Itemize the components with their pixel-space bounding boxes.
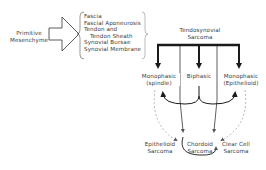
dashed-arcs [154,90,246,140]
root-line1: Tendosynovial [178,27,222,34]
tissue-item: Tendon Sheath [84,33,141,40]
tissue-list: Fascia Fascial Aponeurosis Tendon and Te… [84,13,141,53]
tissue-item: Fascia [84,13,141,20]
related-line1: Epithelioid [142,141,178,148]
related-clear-cell-sarcoma: Clear Cell Sarcoma [220,141,252,154]
root-label: Tendosynovial Sarcoma [178,27,222,40]
related-line1: Clear Cell [220,141,252,148]
origin-line1: Primitive [10,30,48,37]
tissue-item: Synovial Bursae [84,39,141,46]
subtype-line2: (spindle) [138,80,180,87]
related-line2: Sarcoma [220,148,252,155]
related-chordoid-sarcoma: Chordoid Sarcoma [184,141,216,154]
related-line2: Sarcoma [142,148,178,155]
curved-arrows [163,86,235,104]
subtype-line1: Monophasic [218,73,264,80]
subtype-monophasic-spindle: Monophasic (spindle) [138,73,180,86]
closing-brace [142,12,148,59]
hollow-arrow-icon [49,17,79,51]
subtype-line1: Biphasic [184,73,214,80]
subtype-biphasic: Biphasic [184,73,214,80]
related-line1: Chordoid [184,141,216,148]
tissue-item: Fascial Aponeurosis [84,20,141,27]
subtype-monophasic-epithelioid: Monophasic (Epithelioid) [218,73,264,86]
tissue-item: Tendon and [84,26,141,33]
origin-label: Primitive Mesenchyme [10,30,48,43]
subtype-line1: Monophasic [138,73,180,80]
subtype-line2: (Epithelioid) [218,80,264,87]
tissue-item: Synovial Membrane [84,46,141,53]
related-epithelioid-sarcoma: Epithelioid Sarcoma [142,141,178,154]
related-line2: Sarcoma [184,148,216,155]
origin-line2: Mesenchyme [10,37,48,44]
bracket-tree [157,44,240,66]
root-line2: Sarcoma [178,34,222,41]
